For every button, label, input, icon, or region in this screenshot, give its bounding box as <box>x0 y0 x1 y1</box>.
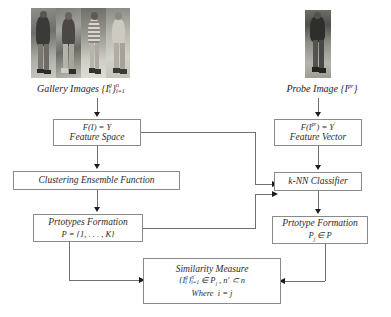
box-prototypes-formation[interactable]: Prtotypes Formation P = {1, . . . , K} <box>33 214 143 242</box>
box-clustering-ensemble-function[interactable]: Clustering Ensemble Function <box>13 171 180 190</box>
box-prototype-formation[interactable]: Prtotype Formation Pj ∈ P <box>272 216 368 244</box>
box-similarity-measure[interactable]: Similarity Measure {Igi}n'i=1 ∈ Pi , n' … <box>143 258 281 304</box>
knn-classifier-label: k-NN Classifier <box>288 176 347 187</box>
prototype-formation-formula: Pj ∈ P <box>308 230 331 242</box>
gallery-caption-symbol: {Igi}ni=1 <box>102 83 125 94</box>
gallery-images-caption: Gallery Images {Igi}ni=1 <box>16 82 146 94</box>
probe-caption-symbol: {Ipr} <box>341 83 358 94</box>
gallery-photo-4 <box>106 8 130 78</box>
probe-image-photo <box>305 10 331 78</box>
arrow-prototypes-to-knn-h1 <box>143 228 256 229</box>
arrow-feature-vector-to-knn-line <box>318 146 319 167</box>
prototypes-formation-formula: P = {1, . . . , K} <box>62 229 115 239</box>
feature-vector-label: Feature Vector <box>290 132 346 143</box>
arrow-feature-space-to-clustering-line <box>97 146 98 166</box>
arrow-knn-to-prototype-formation-line <box>318 191 319 211</box>
probe-caption-text: Probe Image <box>286 83 338 94</box>
arrow-prototypes-to-knn-head <box>272 191 278 197</box>
gallery-photo-2 <box>56 8 81 78</box>
prototype-formation-label: Prtotype Formation <box>282 218 358 229</box>
gallery-photo-1 <box>31 8 56 78</box>
arrow-probe-to-feature-vector-head <box>315 112 321 117</box>
arrow-feature-space-to-knn-v <box>255 132 256 184</box>
probe-photo-1 <box>305 10 331 78</box>
arrow-prototypes-to-knn-v <box>255 194 256 228</box>
similarity-measure-formula: {Igi}n'i=1 ∈ Pi , n' ⊂ n <box>179 275 245 287</box>
gallery-photo-3 <box>81 8 106 78</box>
arrow-feature-vector-to-knn-head <box>315 165 321 170</box>
arrow-prototypes-to-similarity-v <box>69 242 70 280</box>
feature-vector-formula: F(Ipr) = Y' <box>301 121 335 132</box>
arrow-prototype-formation-to-similarity-h <box>284 281 325 282</box>
prototypes-formation-label: Prtotypes Formation <box>48 217 127 228</box>
arrow-prototype-formation-to-similarity-v <box>325 244 326 281</box>
clustering-ensemble-label: Clustering Ensemble Function <box>38 175 154 186</box>
box-feature-space[interactable]: F(I) = Y Feature Space <box>53 119 141 146</box>
arrow-clustering-to-prototypes-head <box>94 207 100 212</box>
gallery-images-photo <box>31 8 130 78</box>
arrow-gallery-to-feature-space-head <box>94 112 100 117</box>
box-knn-classifier[interactable]: k-NN Classifier <box>274 172 362 191</box>
diagram-canvas: Gallery Images {Igi}ni=1 Probe Image {Ip… <box>0 0 391 317</box>
arrow-knn-to-prototype-formation-head <box>315 209 321 214</box>
arrow-feature-space-to-clustering-head <box>94 164 100 169</box>
feature-space-formula: F(I) = Y <box>83 122 111 132</box>
gallery-caption-text: Gallery Images <box>37 83 99 94</box>
feature-space-label: Feature Space <box>70 132 125 143</box>
similarity-measure-where: Where i = j <box>192 288 233 298</box>
arrow-feature-space-to-knn-h1 <box>141 132 255 133</box>
box-feature-vector[interactable]: F(Ipr) = Y' Feature Vector <box>274 119 362 146</box>
probe-image-caption: Probe Image {Ipr} <box>272 82 372 94</box>
arrow-prototypes-to-similarity-h <box>69 280 143 281</box>
